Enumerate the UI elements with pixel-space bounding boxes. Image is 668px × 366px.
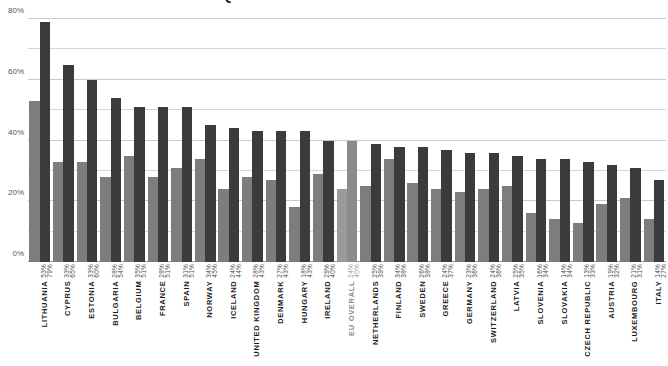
bar: [266, 180, 276, 262]
category-label: HUNGARY: [300, 281, 309, 324]
bar-group: [264, 19, 288, 262]
category-label: SLOVENIA: [536, 281, 545, 325]
bar: [441, 150, 451, 262]
x-axis-label-cell: GREECE24%37%: [430, 264, 454, 366]
value-labels: 26%38%: [419, 264, 430, 278]
x-axis-label-cell: LUXEMBOURG21%31%: [619, 264, 643, 366]
x-axis-label-rotated: BULGARIA28%54%: [111, 264, 122, 326]
x-axis-label-rotated: SPAIN31%51%: [182, 264, 193, 307]
value-labels: 33%60%: [88, 264, 99, 278]
category-label: BELGIUM: [134, 281, 143, 320]
y-axis-tick-label: 40%: [8, 127, 24, 136]
bar-group: [571, 19, 595, 262]
x-axis-label-rotated: ESTONIA33%60%: [87, 264, 98, 319]
bar-group: [477, 19, 501, 262]
bar: [242, 177, 252, 262]
value-labels: 28%51%: [159, 264, 170, 278]
value-labels: 13%33%: [584, 264, 595, 278]
x-axis-labels: LITHUANIA53%79%CYPRUS33%65%ESTONIA33%60%…: [28, 264, 666, 366]
category-label: SWEDEN: [418, 281, 427, 318]
x-axis-label-rotated: DENMARK27%43%: [276, 264, 287, 324]
bar-group: [193, 19, 217, 262]
category-label: CZECH REPUBLIC: [583, 281, 592, 357]
bar: [573, 223, 583, 262]
x-axis-label-cell: CYPRUS33%65%: [52, 264, 76, 366]
bar: [289, 207, 299, 262]
x-axis-label-cell: LATVIA25%35%: [501, 264, 525, 366]
x-axis-label-cell: FRANCE28%51%: [146, 264, 170, 366]
value-labels: 28%43%: [253, 264, 264, 278]
category-label: LATVIA: [512, 281, 521, 312]
bar: [630, 168, 640, 262]
value-label-series-2: 27%: [661, 264, 667, 278]
x-axis-label-rotated: GREECE24%37%: [441, 264, 452, 317]
x-axis-label-rotated: SLOVAKIA14%34%: [560, 264, 571, 324]
x-axis-label-rotated: LITHUANIA53%79%: [40, 264, 51, 327]
value-labels: 24%37%: [442, 264, 453, 278]
value-labels: 16%34%: [537, 264, 548, 278]
bar-group: [359, 19, 383, 262]
category-label: ITALY: [654, 281, 663, 305]
bar: [549, 219, 559, 262]
bar: [526, 213, 536, 262]
bar: [384, 159, 394, 262]
bar: [63, 65, 73, 262]
bar-group: [52, 19, 76, 262]
x-axis-label-rotated: NORWAY34%45%: [205, 264, 216, 318]
x-axis-label-cell: DENMARK27%43%: [264, 264, 288, 366]
bar: [596, 204, 606, 262]
bar: [218, 189, 228, 262]
bar-group: [453, 19, 477, 262]
bar: [87, 80, 97, 262]
bar: [124, 156, 134, 262]
bar: [407, 183, 417, 262]
value-labels: 23%36%: [466, 264, 477, 278]
x-axis-label-rotated: NETHERLANDS25%39%: [371, 264, 382, 345]
bar-group: [217, 19, 241, 262]
x-axis-label-cell: FINLAND34%38%: [382, 264, 406, 366]
bar: [100, 177, 110, 262]
value-labels: 24%36%: [490, 264, 501, 278]
value-labels: 21%31%: [631, 264, 642, 278]
bar-group: [430, 19, 454, 262]
bar-chart: SENIORS QUESTIONS EMPLOYMENT IN EUROPE 0…: [0, 0, 668, 366]
x-axis-label-rotated: LUXEMBOURG21%31%: [630, 264, 641, 342]
bar: [337, 189, 347, 262]
bar-group: [75, 19, 99, 262]
bar: [148, 177, 158, 262]
x-axis-label-rotated: FINLAND34%38%: [394, 264, 405, 318]
bar: [502, 186, 512, 262]
bar: [394, 147, 404, 262]
x-axis-label-cell: IRELAND29%40%: [312, 264, 336, 366]
category-label: LUXEMBOURG: [630, 281, 639, 342]
bar-group: [524, 19, 548, 262]
category-label: EU OVERALL: [347, 281, 356, 336]
x-axis-label-cell: UNITED KINGDOM28%43%: [241, 264, 265, 366]
plot-area: 0%20%40%60%80%: [28, 19, 666, 262]
category-label: LITHUANIA: [40, 281, 49, 328]
x-axis-label-cell: NETHERLANDS25%39%: [359, 264, 383, 366]
bar: [229, 128, 239, 262]
value-labels: 19%32%: [608, 264, 619, 278]
bar: [512, 156, 522, 262]
x-axis-label-cell: ITALY14%27%: [642, 264, 666, 366]
bar: [158, 107, 168, 262]
bar-group: [501, 19, 525, 262]
category-label: NORWAY: [205, 281, 214, 318]
bar: [583, 162, 593, 262]
bar-group: [335, 19, 359, 262]
value-labels: 24%44%: [230, 264, 241, 278]
chart-title: SENIORS QUESTIONS EMPLOYMENT IN EUROPE: [0, 0, 668, 3]
value-labels: 14%34%: [561, 264, 572, 278]
x-axis-label-cell: SLOVENIA16%34%: [524, 264, 548, 366]
x-axis-label-cell: BELGIUM35%51%: [123, 264, 147, 366]
bar: [195, 159, 205, 262]
x-axis-label-cell: NORWAY34%45%: [193, 264, 217, 366]
value-labels: 34%45%: [206, 264, 217, 278]
bar: [323, 141, 333, 263]
x-axis-label-rotated: CYPRUS33%65%: [63, 264, 74, 316]
bar: [478, 189, 488, 262]
x-axis-label-cell: HUNGARY18%43%: [288, 264, 312, 366]
bar: [29, 101, 39, 262]
bar-group: [406, 19, 430, 262]
